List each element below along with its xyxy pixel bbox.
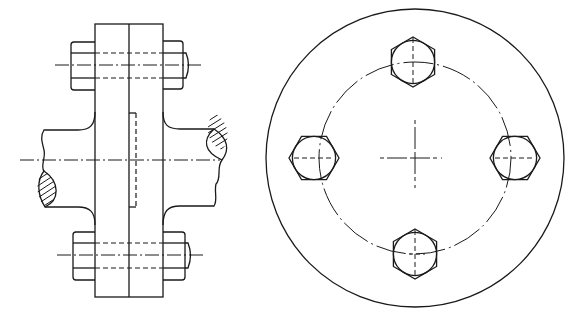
shaft-left (30, 112, 95, 225)
side-view (20, 24, 235, 297)
shaft-right (163, 104, 235, 225)
center-mark (380, 120, 442, 192)
front-bolt-left (289, 136, 339, 179)
hatch-right (200, 104, 235, 162)
hatch-left (30, 165, 62, 221)
front-bolt-top (391, 37, 434, 87)
front-bolt-bottom (393, 229, 436, 279)
flange-coupling-drawing (0, 0, 578, 315)
front-view (266, 9, 564, 307)
front-bolt-right (490, 136, 540, 179)
side-bolt-bottom (57, 232, 205, 280)
